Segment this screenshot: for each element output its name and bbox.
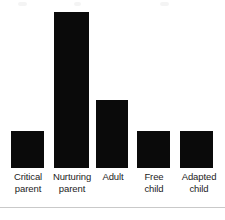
category-label-adult: Adult [94,171,132,183]
bar-free-child [137,131,170,168]
category-label-free-child: Free child [132,171,176,195]
bar-adult [96,100,128,168]
bar-adapted-child [180,131,213,168]
bottom-divider [0,207,225,208]
category-label-critical-parent: Critical parent [4,171,52,195]
bar-critical-parent [11,131,44,168]
category-label-adapted-child: Adapted child [174,171,224,195]
bar-nurturing-parent [54,12,89,168]
category-label-nurturing-parent: Nurturing parent [46,171,98,195]
bar-chart-figure: Critical parent Nurturing parent Adult F… [0,0,225,220]
plot-area [0,0,225,168]
category-axis-labels: Critical parent Nurturing parent Adult F… [0,169,225,203]
